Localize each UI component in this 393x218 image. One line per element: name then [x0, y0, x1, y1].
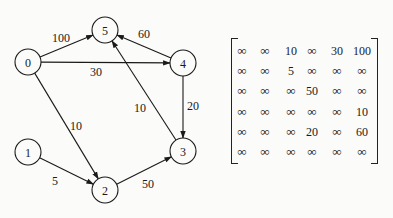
- edge-weight-label: 20: [187, 99, 199, 113]
- node-label: 4: [180, 57, 186, 71]
- graph-node-2: 2: [92, 177, 118, 203]
- matrix-cell: ∞: [230, 81, 254, 101]
- edge-weight-label: 5: [52, 174, 58, 188]
- matrix-cell: ∞: [230, 142, 254, 162]
- adjacency-matrix: ∞∞10∞30100∞∞5∞∞∞∞∞∞50∞∞∞∞∞∞∞10∞∞∞20∞60∞∞…: [231, 38, 378, 164]
- node-label: 1: [25, 146, 31, 160]
- edge-weight-label: 10: [134, 101, 146, 115]
- matrix-cell: ∞: [325, 81, 349, 101]
- graph-node-4: 4: [170, 50, 196, 76]
- matrix-cell: ∞: [230, 61, 254, 81]
- matrix-row: ∞∞∞20∞60: [231, 122, 378, 142]
- matrix-row: ∞∞∞∞∞∞: [231, 142, 378, 162]
- matrix-cell: ∞: [325, 102, 349, 122]
- graph-node-5: 5: [92, 17, 118, 43]
- edge-weight-label: 30: [90, 65, 102, 79]
- matrix-cell: ∞: [230, 41, 254, 61]
- edge-weight-label: 60: [138, 27, 150, 41]
- graph-node-3: 3: [170, 138, 196, 164]
- edge-weight-label: 50: [142, 177, 154, 191]
- matrix-cell: ∞: [325, 142, 349, 162]
- matrix-cell: ∞: [350, 81, 374, 101]
- edge-1-to-2: [40, 158, 94, 184]
- node-label: 5: [102, 24, 108, 38]
- matrix-cell: ∞: [300, 142, 324, 162]
- matrix-row: ∞∞10∞30100: [231, 41, 378, 61]
- edge-weight-label: 100: [52, 31, 70, 45]
- node-label: 2: [102, 184, 108, 198]
- matrix-cell: ∞: [300, 61, 324, 81]
- matrix-cell: ∞: [253, 102, 277, 122]
- matrix-cell: 50: [300, 81, 324, 101]
- matrix-cell: 100: [350, 41, 374, 61]
- matrix-row: ∞∞∞50∞∞: [231, 81, 378, 101]
- matrix-cell: ∞: [300, 102, 324, 122]
- matrix-cell: ∞: [325, 61, 349, 81]
- edge-0-to-4: [41, 62, 170, 63]
- matrix-cell: ∞: [230, 122, 254, 142]
- matrix-cell: ∞: [300, 41, 324, 61]
- matrix-cell: ∞: [253, 142, 277, 162]
- matrix-cell: ∞: [253, 81, 277, 101]
- matrix-cell: ∞: [350, 142, 374, 162]
- edge-0-to-2: [35, 73, 99, 179]
- matrix-cell: 10: [350, 102, 374, 122]
- matrix-row: ∞∞5∞∞∞: [231, 61, 378, 81]
- matrix-cell: 30: [325, 41, 349, 61]
- node-label: 0: [25, 56, 31, 70]
- matrix-row: ∞∞∞∞∞10: [231, 102, 378, 122]
- matrix-cell: ∞: [230, 102, 254, 122]
- matrix-cell: ∞: [253, 61, 277, 81]
- matrix-cell: ∞: [253, 41, 277, 61]
- matrix-cell: 20: [300, 122, 324, 142]
- node-label: 3: [180, 145, 186, 159]
- matrix-cell: 60: [350, 122, 374, 142]
- matrix-cell: ∞: [350, 61, 374, 81]
- edge-weight-label: 10: [70, 119, 82, 133]
- graph-node-1: 1: [15, 139, 41, 165]
- matrix-cell: ∞: [253, 122, 277, 142]
- matrix-cell: ∞: [325, 122, 349, 142]
- graph-node-0: 0: [15, 49, 41, 75]
